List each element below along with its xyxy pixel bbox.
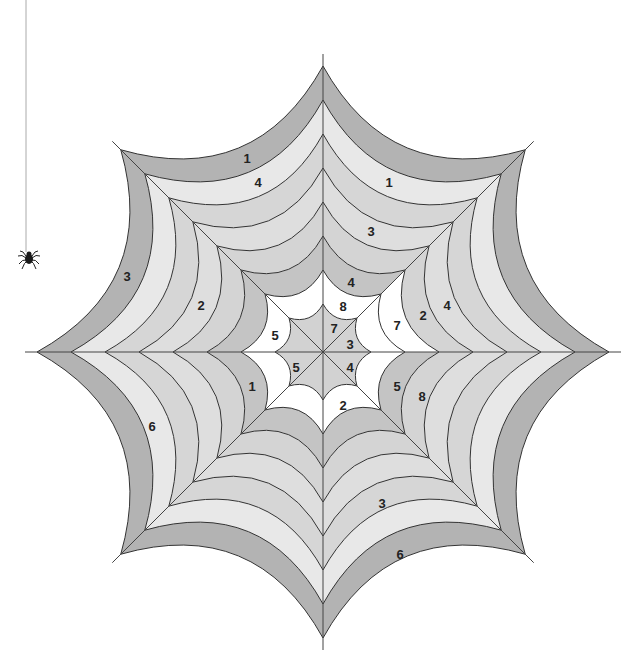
spider-leg <box>18 255 26 258</box>
region-number: 3 <box>346 337 353 352</box>
region-number: 2 <box>197 298 204 313</box>
spider-leg <box>32 255 40 258</box>
region-number: 8 <box>339 299 346 314</box>
spider-head <box>27 252 32 257</box>
region-number: 1 <box>248 379 255 394</box>
region-number: 2 <box>419 308 426 323</box>
region-number: 5 <box>393 379 400 394</box>
region-number: 3 <box>378 496 385 511</box>
region-number: 3 <box>123 269 130 284</box>
region-number: 6 <box>148 419 155 434</box>
web-spokes <box>25 54 621 650</box>
region-number: 1 <box>243 151 250 166</box>
region-number: 5 <box>292 360 299 375</box>
region-number: 7 <box>330 321 337 336</box>
region-number: 4 <box>443 298 451 313</box>
region-number: 4 <box>254 175 262 190</box>
spider-icon <box>18 0 40 269</box>
region-number: 2 <box>339 398 346 413</box>
region-number: 7 <box>393 318 400 333</box>
region-number: 3 <box>367 224 374 239</box>
region-number: 4 <box>347 275 355 290</box>
spider-web-worksheet: 14133428427573541582636 <box>0 0 641 660</box>
region-number: 4 <box>346 360 354 375</box>
region-number: 1 <box>385 175 392 190</box>
region-number: 8 <box>418 389 425 404</box>
region-number: 6 <box>396 547 403 562</box>
region-number: 5 <box>271 328 278 343</box>
